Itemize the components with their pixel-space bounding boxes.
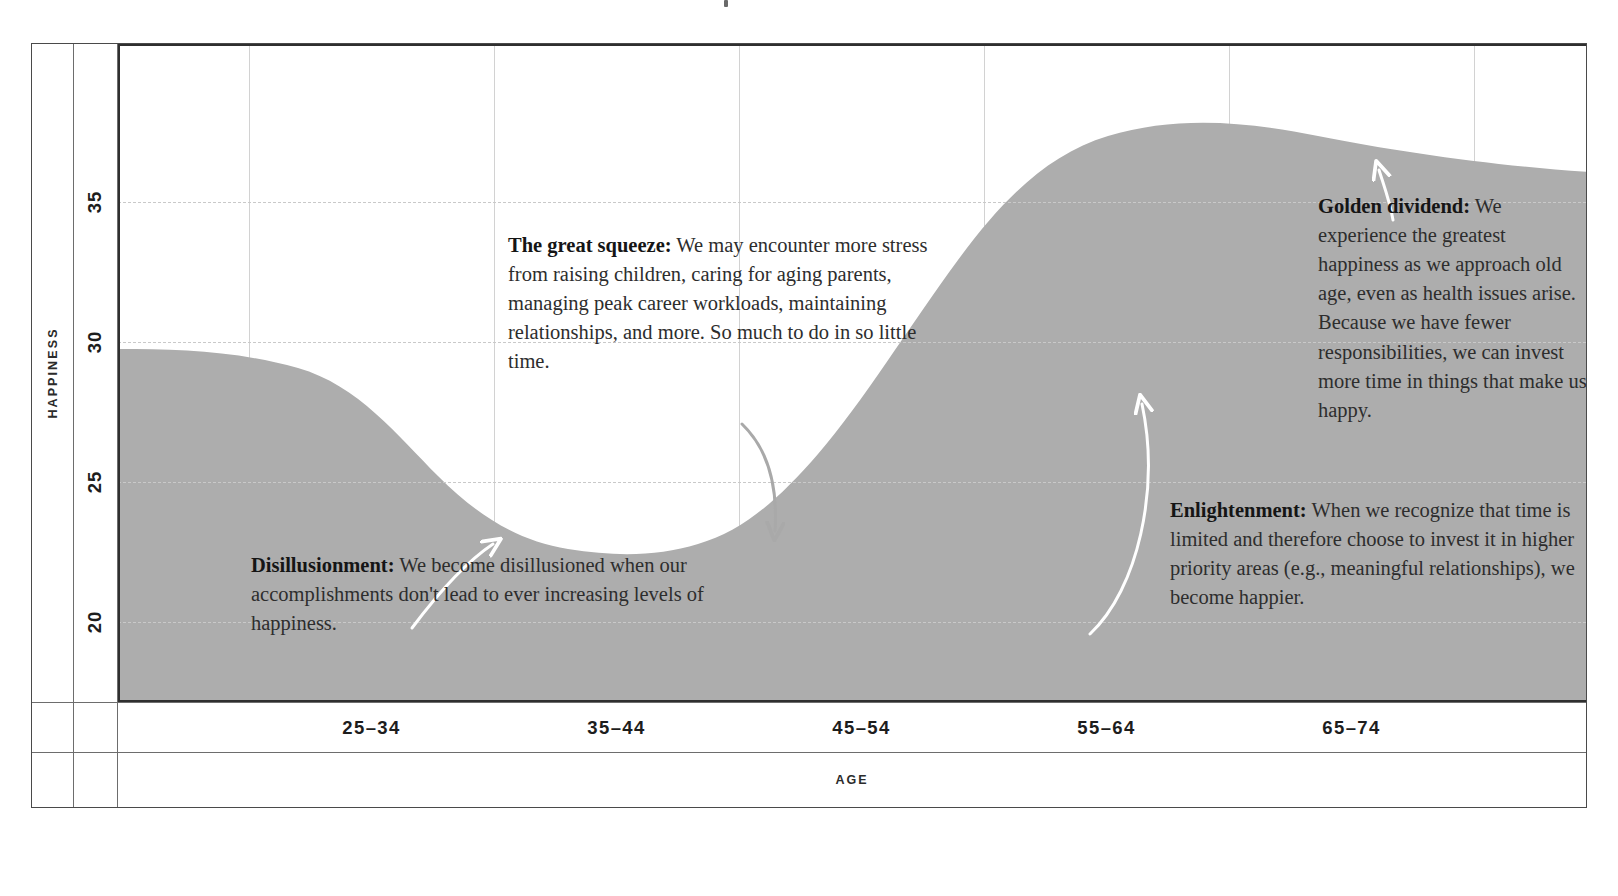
annotation-enlightenment-lead: Enlightenment: bbox=[1170, 499, 1307, 521]
annotation-disillusionment-lead: Disillusionment: bbox=[251, 554, 395, 576]
x-tick-45-54: 45–54 bbox=[739, 703, 984, 752]
annotation-disillusionment: Disillusionment: We become disillusioned… bbox=[251, 551, 719, 638]
x-axis-title: AGE bbox=[118, 753, 1586, 807]
x-axis-tick-labels: 25–34 35–44 45–54 55–64 65–74 bbox=[118, 703, 1586, 752]
y-axis-title: HAPPINESS bbox=[32, 44, 74, 702]
horizontal-gridline-25 bbox=[118, 482, 1586, 483]
x-tick-65-74: 65–74 bbox=[1229, 703, 1474, 752]
plot-border-top bbox=[118, 44, 1586, 46]
annotation-great-squeeze-lead: The great squeeze: bbox=[508, 234, 672, 256]
chart-frame: HAPPINESS 20 25 30 35 bbox=[31, 43, 1587, 808]
y-axis-tick-labels: 20 25 30 35 bbox=[74, 44, 117, 702]
plot-border-left bbox=[118, 44, 120, 702]
annotation-golden-dividend-lead: Golden dividend: bbox=[1318, 195, 1470, 217]
plot-border-bottom bbox=[118, 700, 1586, 702]
annotation-golden-dividend-body: We experience the greatest happiness as … bbox=[1318, 195, 1587, 421]
annotation-golden-dividend: Golden dividend: We experience the great… bbox=[1318, 192, 1588, 425]
y-axis-title-label: HAPPINESS bbox=[46, 327, 60, 418]
x-tick-35-44: 35–44 bbox=[494, 703, 739, 752]
annotation-great-squeeze: The great squeeze: We may encounter more… bbox=[508, 231, 954, 377]
page-speck bbox=[724, 0, 728, 7]
x-tick-25-34: 25–34 bbox=[249, 703, 494, 752]
annotation-enlightenment: Enlightenment: When we recognize that ti… bbox=[1170, 496, 1590, 612]
x-tick-55-64: 55–64 bbox=[984, 703, 1229, 752]
